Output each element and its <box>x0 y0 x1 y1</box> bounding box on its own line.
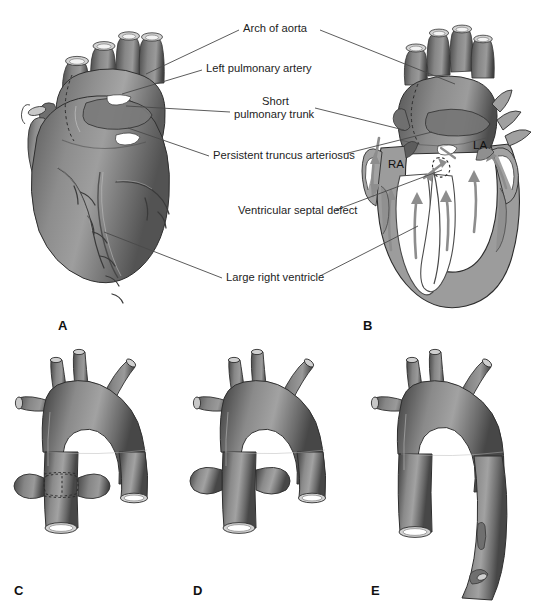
panel-d-left-pa <box>190 467 222 494</box>
panel-letter-c: C <box>14 583 23 598</box>
label-short-pulmonary-trunk-line-1: Short <box>262 95 289 108</box>
label-large-right-ventricle: Large right ventricle <box>226 271 324 284</box>
panel-c-illustration <box>14 349 148 533</box>
illustration-svg <box>0 0 559 613</box>
panel-a-illustration <box>21 32 169 303</box>
label-left-pulmonary-artery: Left pulmonary artery <box>206 62 312 75</box>
label-persistent-truncus-arteriosus: Persistent truncus arteriosus <box>213 149 355 162</box>
figure-canvas: Arch of aorta Left pulmonary artery Shor… <box>0 0 559 613</box>
label-left-atrium: LA <box>473 139 487 151</box>
panel-c-pulmonary-branches <box>14 474 44 499</box>
panel-letter-e: E <box>371 583 380 598</box>
label-ventricular-septal-defect: Ventricular septal defect <box>238 204 357 217</box>
panel-letter-a: A <box>58 318 67 333</box>
label-right-atrium: RA <box>388 158 404 170</box>
label-arch-of-aorta: Arch of aorta <box>243 22 307 35</box>
panel-e-illustration <box>371 349 507 600</box>
panel-letter-d: D <box>193 583 202 598</box>
panel-letter-b: B <box>363 318 372 333</box>
panel-d-illustration <box>190 349 326 533</box>
label-short-pulmonary-trunk-line-2: pulmonary trunk <box>234 108 314 121</box>
panel-d-right-pa <box>256 467 290 494</box>
